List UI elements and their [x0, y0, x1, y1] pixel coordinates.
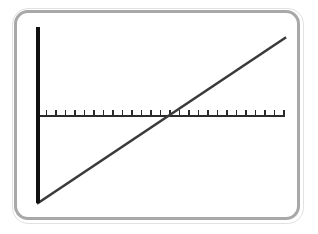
diagonal-data-line	[38, 38, 285, 203]
screenshot-root	[0, 0, 318, 234]
x-axis-tick-group	[47, 110, 285, 116]
graph-frame	[14, 10, 300, 220]
plot-svg	[17, 13, 303, 223]
plot-area	[17, 13, 303, 223]
